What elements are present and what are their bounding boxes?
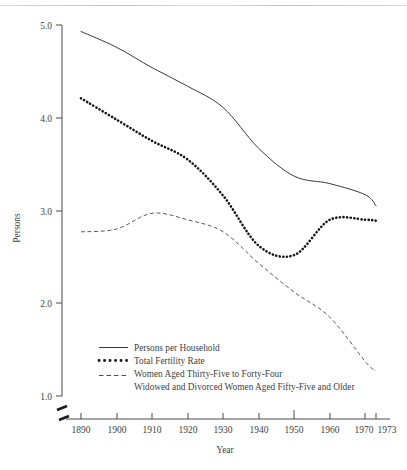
- x-tick-label-1920: 1920: [179, 425, 198, 435]
- series-persons-per-household: [81, 31, 376, 205]
- x-tick-label-1970: 1970: [355, 425, 374, 435]
- x-tick-label-1950: 1950: [285, 425, 304, 435]
- legend-label-persons-per-household: Persons per Household: [134, 343, 220, 353]
- y-tick-label-1: 1.0: [40, 392, 52, 402]
- y-tick-label-5: 5.0: [40, 21, 52, 31]
- series-total-fertility-rate: [81, 98, 376, 257]
- y-axis-title: Persons: [12, 213, 22, 243]
- x-axis-title: Year: [216, 445, 234, 455]
- x-tick-label-1960: 1960: [321, 425, 340, 435]
- figure-container: 5.0 4.0 3.0 2.0 1.0 Persons 1890: [0, 0, 407, 470]
- x-tick-label-1973: 1973: [378, 425, 397, 435]
- chart-legend: Persons per Household Total Fertility Ra…: [99, 343, 355, 392]
- axis-break-icon: [57, 406, 69, 420]
- x-tick-label-1890: 1890: [72, 425, 91, 435]
- legend-label-women-thirty-five-to-forty-four: Women Aged Thirty-Five to Forty-Four: [134, 369, 283, 379]
- x-tick-marks: [81, 410, 376, 419]
- y-tick-label-4: 4.0: [40, 114, 52, 124]
- x-tick-label-1940: 1940: [250, 425, 269, 435]
- x-tick-label-1900: 1900: [108, 425, 127, 435]
- x-tick-label-1930: 1930: [214, 425, 233, 435]
- legend-label-widowed-divorced-fifty-five-and-older: Widowed and Divorced Women Aged Fifty-Fi…: [134, 382, 355, 392]
- legend-label-total-fertility-rate: Total Fertility Rate: [134, 356, 205, 366]
- y-tick-marks: [56, 25, 62, 396]
- y-tick-label-2: 2.0: [40, 299, 52, 309]
- x-tick-label-1910: 1910: [143, 425, 162, 435]
- y-tick-label-3: 3.0: [40, 207, 52, 217]
- chart-canvas: 5.0 4.0 3.0 2.0 1.0 Persons 1890: [0, 0, 407, 470]
